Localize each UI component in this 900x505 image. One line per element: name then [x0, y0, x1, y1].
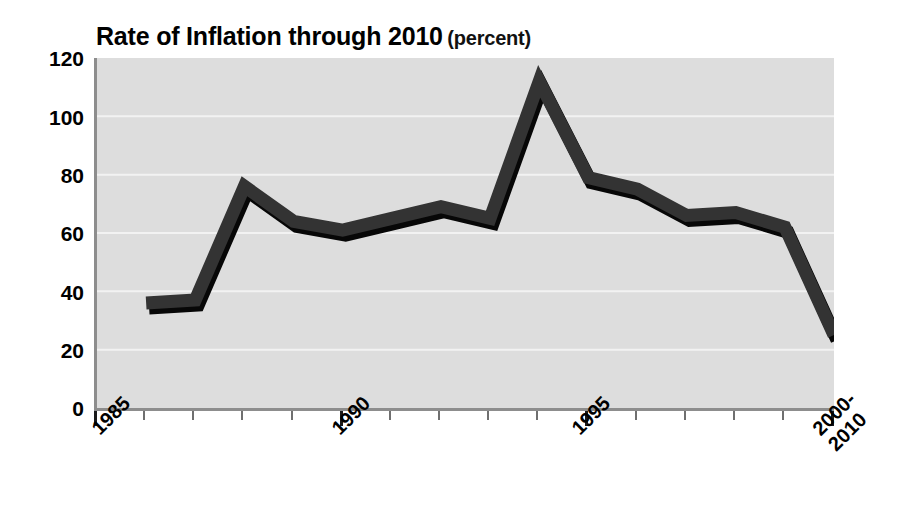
x-tick-label-1995: 1995 — [568, 393, 614, 439]
x-axis-tick-labels: 1985 1990 1995 2000- 2010 — [0, 0, 900, 505]
x-tick-label-2000-2010: 2000- 2010 — [808, 388, 876, 456]
x-tick-label-1985: 1985 — [88, 393, 134, 439]
inflation-line-chart-figure: Rate of Inflation through 2010 (percent)… — [0, 0, 900, 505]
x-tick-label-1990: 1990 — [328, 393, 374, 439]
